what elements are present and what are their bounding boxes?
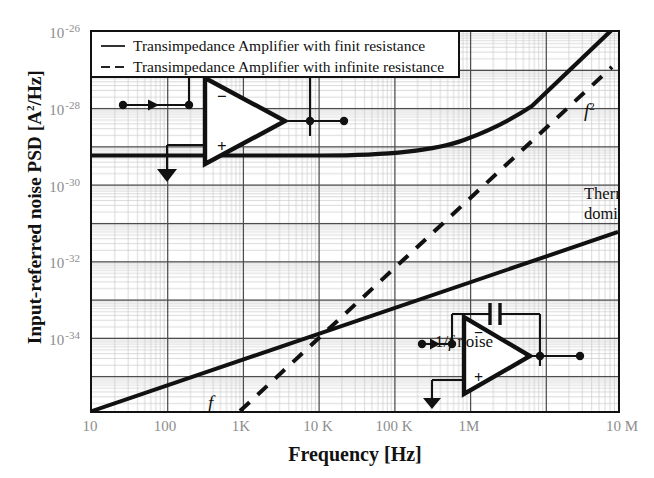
figure-root: Input-referred noise PSD [A2/Hz] Frequen… — [0, 0, 654, 478]
input-node-dot — [418, 340, 426, 348]
y-tick-label: 10-28 — [18, 99, 80, 119]
y-tick-label: 10-26 — [18, 22, 80, 42]
x-tick-label: 10 M — [596, 418, 648, 435]
legend-solid-line-icon — [101, 40, 127, 51]
legend-dashed-line-icon — [101, 61, 127, 72]
y-tick-label: 10-34 — [18, 329, 80, 349]
annotation-thermal-line-1: Thermal noise — [584, 184, 620, 204]
x-tick-label: 1M — [445, 418, 493, 435]
output-node-dot — [306, 117, 314, 125]
x-tick-label: 10 — [66, 418, 114, 435]
opamp-noninverting-label: + — [474, 369, 483, 386]
annotation-f-label: f — [208, 392, 213, 413]
y-tick-label: 10-30 — [18, 176, 80, 196]
output-terminal-dot — [340, 117, 348, 125]
x-axis-title: Frequency [Hz] — [90, 443, 620, 466]
legend-entry-finite-resistance: Transimpedance Amplifier with finit resi… — [101, 35, 458, 56]
x-tick-label: 1K — [217, 418, 265, 435]
x-tick-label: 100 K — [364, 418, 424, 435]
output-node-dot — [536, 352, 544, 360]
y-tick-label: 10-32 — [18, 252, 80, 272]
x-tick-label: 10 K — [291, 418, 345, 435]
opamp-inverting-label: − — [217, 87, 227, 106]
plot-svg: − + — [92, 32, 618, 411]
legend-label: Transimpedance Amplifier with finit resi… — [133, 37, 425, 55]
annotation-one-over-f-noise: 1/f noise — [435, 332, 493, 352]
annotation-thermal-noise-dominates: Thermal noise dominates — [584, 184, 620, 224]
y-axis-title-pre: Input-referred noise PSD [A — [24, 111, 45, 344]
output-terminal-dot — [576, 352, 584, 360]
plot-area: − + — [90, 30, 620, 413]
x-tick-label: 100 — [141, 418, 189, 435]
legend-label: Transimpedance Amplifier with infinite r… — [133, 58, 444, 76]
opamp-noninverting-label: + — [217, 137, 227, 156]
legend: Transimpedance Amplifier with finit resi… — [90, 30, 460, 78]
legend-entry-infinite-resistance: Transimpedance Amplifier with infinite r… — [101, 56, 458, 77]
annotation-f-squared: f2 — [584, 100, 595, 122]
annotation-thermal-line-2: dominates — [584, 204, 620, 224]
